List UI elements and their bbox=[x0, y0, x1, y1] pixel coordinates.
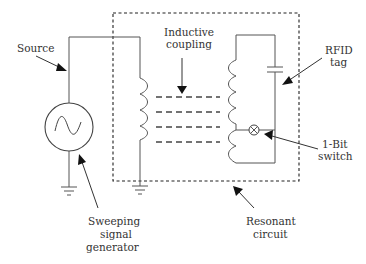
source-wiring bbox=[69, 37, 140, 187]
ground-icon bbox=[132, 186, 148, 194]
resonant-label-line1: Resonant bbox=[246, 215, 297, 227]
capacitor-icon bbox=[267, 67, 283, 72]
rfid-tag-label-line1: RFID bbox=[325, 44, 353, 56]
generator-label-line1: Sweeping bbox=[88, 215, 140, 227]
primary-coil-icon bbox=[140, 78, 148, 140]
rfid-tag-label-line2: tag bbox=[330, 56, 347, 68]
generator-label-line3: generator bbox=[86, 241, 140, 253]
switch-pointer-arrow-icon bbox=[264, 130, 318, 149]
generator-pointer-arrow-icon bbox=[78, 154, 98, 208]
source-label: Source bbox=[17, 42, 54, 54]
inductive-coupling-arrow-icon bbox=[177, 58, 187, 94]
inductive-coupling-label-line2: coupling bbox=[166, 38, 212, 50]
tag-wiring bbox=[236, 35, 275, 163]
inductive-coupling-label-line1: Inductive bbox=[164, 26, 214, 38]
resonant-label-line2: circuit bbox=[253, 228, 288, 240]
crossed-circle-switch-icon bbox=[249, 125, 259, 135]
switch-label-line1: 1-Bit bbox=[322, 138, 348, 150]
ground-icon bbox=[61, 187, 77, 195]
rfid-tag-pointer-arrow-icon bbox=[282, 58, 322, 85]
source-pointer-arrow-icon bbox=[36, 56, 67, 71]
resonant-pointer-arrow-icon bbox=[233, 186, 254, 208]
sine-source-icon bbox=[45, 103, 93, 151]
switch-label-line2: switch bbox=[318, 150, 353, 162]
magnetic-field-lines bbox=[156, 97, 220, 142]
tag-coil-icon bbox=[229, 60, 237, 163]
rfid-circuit-diagram: Source Inductive coupling RFID tag 1-Bit… bbox=[0, 0, 366, 264]
generator-label-line2: signal bbox=[100, 228, 132, 240]
